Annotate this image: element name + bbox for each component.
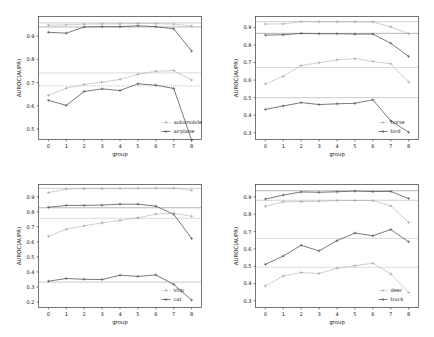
series-line-horse-auroc [265,22,408,34]
y-tick-label: 0.6 [243,77,251,83]
legend-label-automobile: automobile [174,119,203,125]
data-point-marker [353,20,356,23]
data-point-marker [382,298,385,301]
y-tick-label: 0.5 [243,95,251,101]
x-tick-label: 7 [389,311,392,317]
data-point-marker [101,87,104,90]
data-point-marker [353,264,356,267]
x-tick-label: 6 [154,311,157,317]
data-point-marker [282,200,285,203]
x-axis-label: group [112,151,128,158]
data-point-marker [264,285,267,288]
data-point-marker [47,94,50,97]
x-tick-label: 1 [282,143,285,149]
data-point-marker [353,199,356,202]
x-tick-label: 0 [47,311,50,317]
data-point-marker [318,191,321,194]
data-point-marker [282,75,285,78]
y-axis-label: AUROC(AUPR) [16,227,22,265]
chart-panel-top-right: 0123456780.30.40.50.60.70.80.9groupAUROC… [217,0,434,169]
y-tick-label: 0.4 [243,280,251,286]
data-point-marker [119,78,122,81]
x-tick-label: 2 [300,311,303,317]
y-tick-label: 0.7 [243,229,251,235]
y-tick-label: 0.7 [243,59,251,65]
data-point-marker [336,58,339,61]
data-point-marker [371,262,374,265]
legend-label-ship: ship [174,287,185,294]
data-point-marker [353,57,356,60]
data-point-marker [407,32,410,35]
data-point-marker [382,121,385,124]
data-point-marker [83,25,86,28]
data-point-marker [382,130,385,133]
data-point-marker [136,275,139,278]
x-tick-label: 3 [100,311,103,317]
data-point-marker [119,274,122,277]
data-point-marker [407,221,410,224]
data-point-marker [300,64,303,67]
data-point-marker [282,33,285,36]
data-point-marker [371,33,374,36]
data-point-marker [336,32,339,35]
data-point-marker [282,22,285,25]
data-point-marker [83,224,86,227]
x-tick-label: 6 [154,143,157,149]
data-point-marker [154,205,157,208]
data-point-marker [264,23,267,26]
data-point-marker [65,228,68,231]
data-point-marker [300,271,303,274]
y-tick-label: 0.8 [243,42,251,48]
y-tick-label: 0.5 [26,254,34,260]
data-point-marker [389,25,392,28]
data-point-marker [318,61,321,64]
data-point-marker [65,188,68,191]
data-point-marker [172,69,175,72]
data-point-marker [47,24,50,27]
data-point-marker [154,213,157,216]
data-point-marker [154,22,157,25]
series-line-airplane-auroc [48,26,191,51]
data-point-marker [154,70,157,73]
y-tick-label: 0.6 [26,103,34,109]
x-tick-label: 6 [371,311,374,317]
data-point-marker [190,79,193,82]
y-tick-label: 0.2 [26,299,34,305]
data-point-marker [47,235,50,238]
data-point-marker [47,191,50,194]
x-tick-label: 2 [300,143,303,149]
y-tick-label: 0.3 [243,298,251,304]
x-tick-label: 1 [65,143,68,149]
data-point-marker [318,103,321,106]
legend-label-deer: deer [391,287,404,293]
x-tick-label: 5 [136,311,139,317]
x-tick-label: 4 [118,311,121,317]
chart-panel-top-left: 0123456780.50.60.70.80.9groupAUROC(AUPR)… [0,0,217,169]
data-point-marker [119,203,122,206]
x-tick-label: 1 [282,311,285,317]
series-line-horse-aupr [265,59,408,84]
data-point-marker [65,87,68,90]
x-tick-label: 6 [371,143,374,149]
x-tick-label: 8 [407,311,410,317]
y-tick-label: 0.4 [26,269,34,275]
x-tick-label: 4 [335,143,338,149]
data-point-marker [371,234,374,237]
x-tick-label: 2 [83,311,86,317]
y-axis-label: AUROC(AUPR) [16,59,22,97]
data-point-marker [119,25,122,28]
data-point-marker [172,187,175,190]
y-tick-label: 0.7 [26,80,34,86]
data-point-marker [47,99,50,102]
data-point-marker [83,204,86,207]
x-axis-label: group [329,151,345,158]
x-tick-label: 3 [317,311,320,317]
x-tick-label: 1 [65,311,68,317]
x-tick-label: 5 [136,143,139,149]
data-point-marker [318,32,321,35]
data-point-marker [264,82,267,85]
data-point-marker [336,20,339,23]
legend-label-bird: bird [391,128,401,134]
data-point-marker [371,20,374,23]
data-point-marker [119,219,122,222]
